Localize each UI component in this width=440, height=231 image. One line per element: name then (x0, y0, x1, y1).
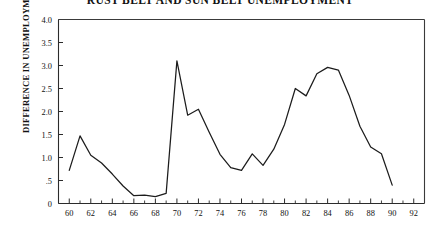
data-series (69, 61, 392, 197)
x-tick-label: 72 (194, 209, 202, 218)
x-tick-label: 82 (302, 209, 310, 218)
y-tick-label: 3.5 (42, 39, 52, 48)
y-tick-label: 1.0 (42, 154, 52, 163)
x-tick-label: 92 (410, 209, 418, 218)
x-tick-label: 90 (388, 209, 396, 218)
series-line (69, 61, 392, 197)
x-tick-label: 80 (280, 209, 288, 218)
plot-area: 0.51.01.52.02.53.03.54.0 606264666870727… (0, 0, 440, 231)
x-tick-label: 74 (216, 209, 225, 218)
y-tick-label: 2.5 (42, 85, 52, 94)
x-tick-label: 60 (65, 209, 73, 218)
y-tick-label: 1.5 (42, 131, 52, 140)
x-tick-label: 62 (87, 209, 95, 218)
y-tick-label: 2.0 (42, 108, 52, 117)
x-tick-label: 70 (173, 209, 181, 218)
x-tick-label: 76 (237, 209, 245, 218)
x-tick-label: 84 (323, 209, 332, 218)
x-tick-label: 68 (151, 209, 159, 218)
x-tick-label: 78 (259, 209, 267, 218)
chart-figure: RUST BELT AND SUN BELT UNEMPLOYMENT DIFF… (0, 0, 440, 231)
y-tick-label: 0 (48, 200, 52, 209)
x-tick-label: 64 (108, 209, 117, 218)
y-tick-label: 3.0 (42, 62, 52, 71)
y-tick-label: 4.0 (42, 16, 52, 25)
y-tick-label: .5 (46, 177, 52, 186)
x-tick-label: 88 (366, 209, 374, 218)
x-axis-ticks: 6062646668707274767880828486889092 (65, 199, 418, 219)
x-tick-label: 86 (345, 209, 353, 218)
x-tick-label: 66 (130, 209, 138, 218)
y-axis-ticks: 0.51.01.52.02.53.03.54.0 (42, 16, 63, 209)
